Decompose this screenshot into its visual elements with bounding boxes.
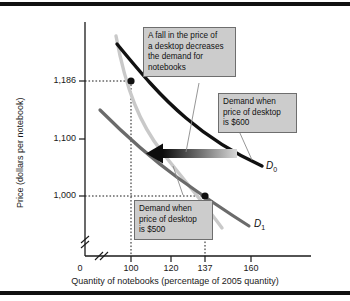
curve-label-d0-sub: 0 bbox=[273, 166, 277, 173]
x-axis-label: Quantity of notebooks (percentage of 200… bbox=[71, 277, 279, 286]
x-tick-label-0: 0 bbox=[72, 264, 88, 273]
x-tick-label-160: 160 bbox=[238, 264, 264, 273]
x-tick-label-137: 137 bbox=[192, 264, 218, 273]
point-d0 bbox=[127, 77, 134, 84]
y-tick-label-1100: 1,100 bbox=[42, 134, 76, 143]
curve-label-d1-sub: 1 bbox=[261, 224, 265, 231]
callout-demand-600: Demand when price of desktop is $600 bbox=[218, 93, 297, 133]
x-tick-label-120: 120 bbox=[158, 264, 184, 273]
figure-container: 1,186 1,100 1,000 0 100 120 137 160 Pric… bbox=[0, 0, 350, 301]
x-tick-label-100: 100 bbox=[118, 264, 144, 273]
callout-demand-500: Demand when price of desktop is $500 bbox=[134, 200, 213, 240]
curve-label-d0: D0 bbox=[266, 160, 277, 173]
callout-price-fall: A fall in the price of a desktop decreas… bbox=[143, 27, 236, 77]
point-d1 bbox=[201, 192, 208, 199]
y-tick-label-1000: 1,000 bbox=[42, 191, 76, 200]
y-tick-label-1186: 1,186 bbox=[42, 76, 76, 85]
y-axis-label: Price (dollars per notebook) bbox=[16, 97, 25, 208]
curve-label-d1: D1 bbox=[254, 218, 265, 231]
